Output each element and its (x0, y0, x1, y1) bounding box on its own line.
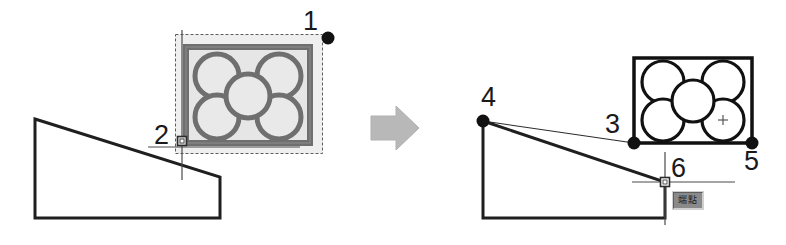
transition-arrow-shape (371, 106, 419, 150)
callout-label-3: 3 (605, 111, 620, 138)
circle-center (226, 74, 270, 118)
circle-center (672, 80, 714, 122)
grip-point-4 (477, 115, 490, 128)
left-panel-group (35, 30, 335, 218)
snap-marker-point-2-inner (180, 139, 184, 143)
grip-point-3 (628, 137, 641, 150)
callout-label-1: 1 (303, 8, 318, 35)
vector-drawing (0, 0, 786, 245)
callout-label-5: 5 (744, 148, 759, 175)
callout-label-4: 4 (481, 84, 496, 111)
illustration-canvas: 1 2 3 4 5 6 端點 (0, 0, 786, 245)
callout-label-2: 2 (154, 122, 169, 149)
callout-label-6: 6 (671, 155, 686, 182)
grip-point-1 (322, 32, 335, 45)
snap-marker-point-6-inner (663, 180, 667, 184)
osnap-tooltip: 端點 (673, 192, 703, 209)
right-panel-group (477, 58, 759, 225)
